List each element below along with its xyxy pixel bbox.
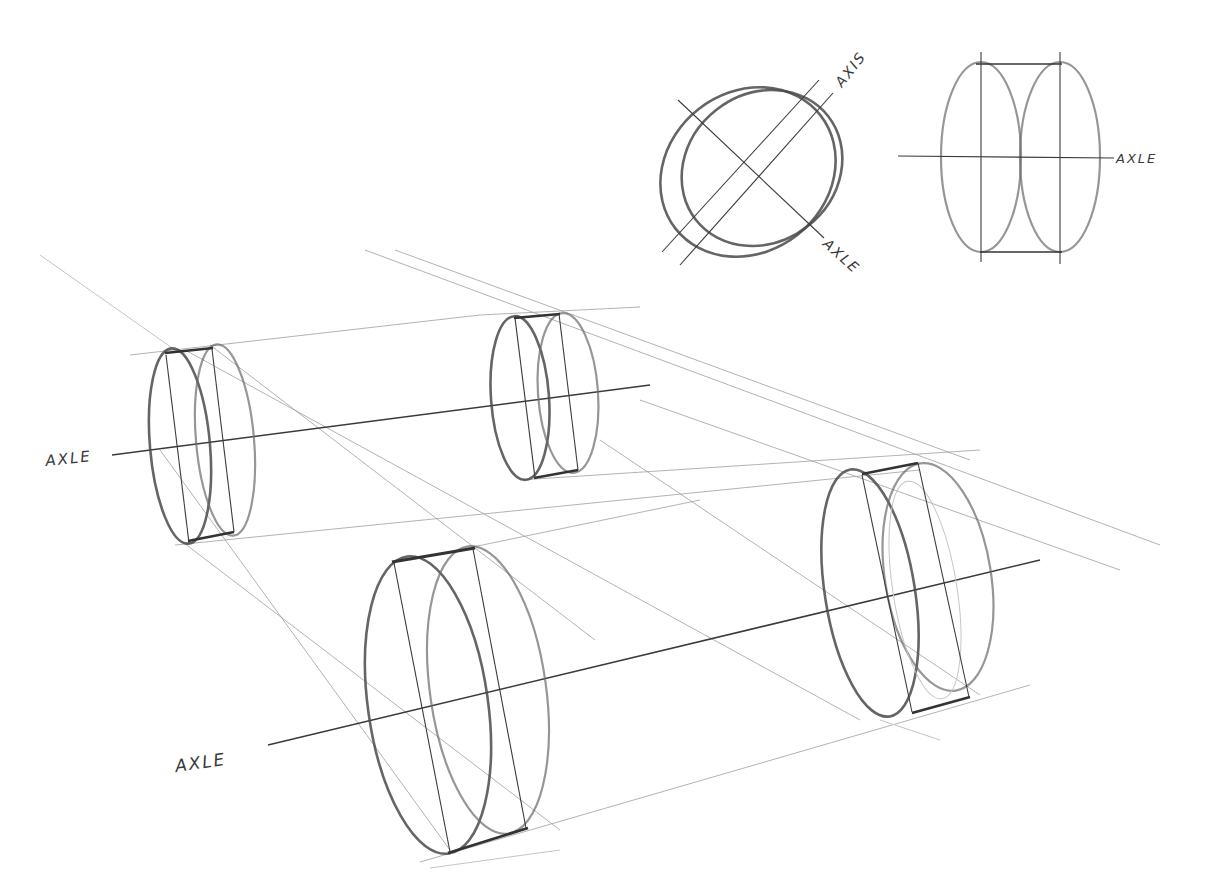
- label-axle-rear: AXLE: [44, 447, 93, 470]
- wheel-front-right: [806, 455, 1008, 723]
- label-axle-side-cylinder: AXLE: [1115, 151, 1157, 166]
- labels: AXIS AXLE AXLE AXLE AXLE: [44, 48, 1158, 776]
- label-axis-tilted: AXIS: [831, 48, 869, 90]
- wheel-rear-right: [485, 311, 603, 482]
- side-cylinder-figure: [898, 52, 1114, 264]
- label-axle-tilted: AXLE: [819, 235, 863, 277]
- label-axle-front: AXLE: [173, 749, 228, 776]
- perspective-wheel-sketch: AXIS AXLE AXLE AXLE AXLE: [0, 0, 1206, 893]
- axles: [112, 385, 1040, 745]
- perspective-guidelines: [40, 250, 1160, 868]
